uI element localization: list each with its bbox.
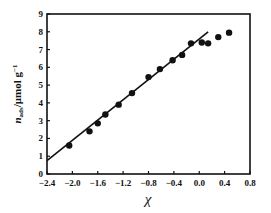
y-tick-label: 9	[39, 9, 44, 19]
x-tick-label: −1.6	[90, 178, 107, 188]
scatter-chart: −2.4−2.0−1.6−1.2−0.8−0.40.00.40.8 012345…	[0, 0, 271, 213]
y-axis-title-sub: ads	[17, 107, 25, 117]
x-tick-label: 0.0	[194, 178, 206, 188]
data-point	[157, 66, 163, 72]
x-tick-label: −1.2	[115, 178, 132, 188]
data-point	[129, 90, 135, 96]
y-axis-title: nads/μmol g−1	[11, 64, 25, 124]
x-tick-label: 0.8	[244, 178, 256, 188]
y-tick-label: 5	[39, 80, 44, 90]
data-point	[95, 120, 101, 126]
y-axis-title-sup: −1	[11, 64, 19, 72]
x-tick-label: −0.4	[166, 178, 183, 188]
x-tick-label: −2.0	[64, 178, 81, 188]
y-tick-label: 8	[39, 27, 44, 37]
y-tick-label: 3	[39, 116, 44, 126]
y-tick-label: 0	[39, 169, 44, 179]
data-point	[145, 74, 151, 80]
x-tick-label: −2.4	[39, 178, 56, 188]
x-tick-label: −0.8	[140, 178, 157, 188]
data-point	[86, 128, 92, 134]
data-point	[199, 39, 205, 45]
data-point	[66, 142, 72, 148]
y-tick-label: 1	[39, 151, 44, 161]
data-point	[188, 40, 194, 46]
data-point	[179, 52, 185, 58]
plot-area	[47, 14, 250, 174]
y-tick-label: 2	[39, 133, 44, 143]
data-point	[115, 101, 121, 107]
data-point	[226, 29, 232, 35]
y-axis-title-unit: /μmol g	[11, 71, 23, 108]
fit-line	[47, 32, 208, 161]
data-point	[102, 111, 108, 117]
data-point	[169, 57, 175, 63]
y-tick-label: 7	[39, 45, 44, 55]
y-tick-label: 6	[39, 62, 44, 72]
y-axis-ticks: 0123456789	[39, 9, 51, 179]
y-tick-label: 4	[39, 98, 44, 108]
data-point	[205, 40, 211, 46]
x-axis-title: χ	[143, 191, 152, 207]
data-point	[215, 34, 221, 40]
svg-text:nads/μmol g−1: nads/μmol g−1	[11, 64, 25, 124]
x-tick-label: 0.4	[219, 178, 231, 188]
